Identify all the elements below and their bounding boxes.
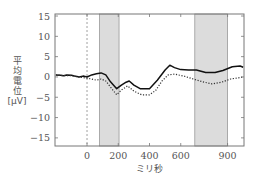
x-tick-label: 0	[84, 150, 90, 161]
y-tick-label: 0	[44, 71, 50, 82]
y-axis-label-char: [μV]	[8, 96, 27, 106]
y-axis-label-char: 位	[13, 85, 22, 96]
y-tick-label: −15	[30, 132, 50, 143]
x-tick-label: 900	[219, 150, 237, 161]
shaded-regions	[100, 14, 228, 146]
x-tick-label: 600	[172, 150, 190, 161]
y-tick-label: −10	[30, 112, 50, 123]
y-tick-label: 5	[44, 51, 50, 62]
y-axis-label: 平均電位[μV]	[8, 56, 27, 106]
y-tick-label: 10	[38, 31, 50, 42]
x-tick-label: 400	[140, 150, 158, 161]
y-axis-label-char: 平	[13, 56, 22, 66]
x-tick-label: 200	[109, 150, 127, 161]
shaded-region	[195, 14, 228, 146]
y-tick-label: 15	[38, 11, 50, 22]
y-axis-label-char: 均	[13, 65, 22, 76]
erp-chart: 151050−5−10−15 0200400600900 ミリ秒 平均電位[μV…	[0, 0, 253, 181]
y-axis-label-char: 電	[13, 76, 22, 86]
x-axis-label: ミリ秒	[136, 163, 163, 174]
y-tick-label: −5	[36, 92, 50, 103]
